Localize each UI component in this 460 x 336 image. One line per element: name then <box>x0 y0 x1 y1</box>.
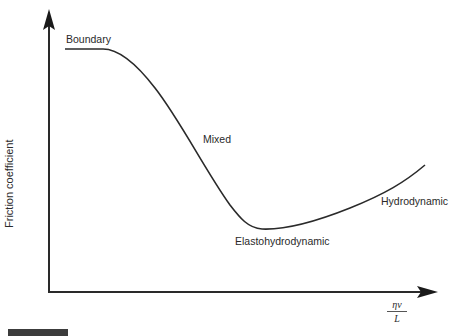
region-label-hydrodynamic: Hydrodynamic <box>381 195 448 207</box>
fraction-bar <box>387 311 407 312</box>
y-axis-label: Friction coefficient <box>3 140 15 228</box>
x-axis-label: ηv L <box>384 299 410 324</box>
region-label-boundary: Boundary <box>66 33 111 45</box>
x-axis-label-denominator: L <box>384 313 410 324</box>
region-label-mixed: Mixed <box>203 133 231 145</box>
region-label-elastohydrodynamic: Elastohydrodynamic <box>235 235 330 247</box>
footer-bar <box>8 329 68 336</box>
stribeck-diagram <box>0 0 460 336</box>
friction-curve <box>65 49 425 229</box>
x-axis-label-numerator: ηv <box>384 299 410 310</box>
